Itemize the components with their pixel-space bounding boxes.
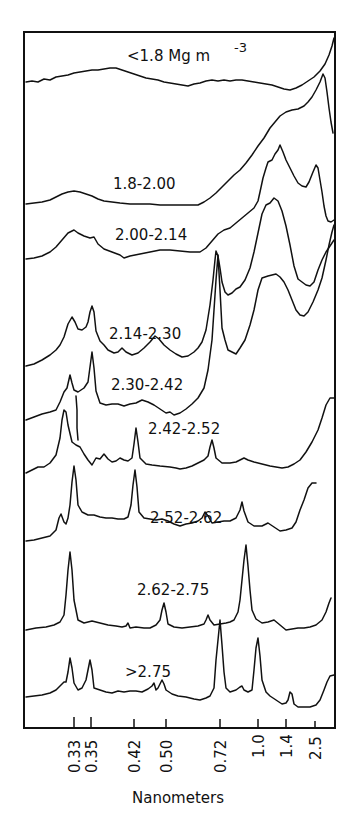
series-label-2.00-2.14: 2.00-2.14 bbox=[115, 226, 187, 244]
x-tick-label-0.72: 0.72 bbox=[212, 740, 230, 773]
trace-1.8-2.00 bbox=[26, 74, 333, 205]
series-label-2.30-2.42: 2.30-2.42 bbox=[111, 376, 183, 394]
series-label-2.42-2.52: 2.42-2.52 bbox=[148, 420, 220, 438]
trace-2.42-2.52-spike bbox=[76, 396, 78, 440]
trace-2.52-2.62 bbox=[26, 466, 316, 541]
x-tick-label-2.5: 2.5 bbox=[307, 736, 325, 760]
series-label-lt-1.8-superscript: -3 bbox=[234, 40, 247, 55]
x-tick-label-0.33: 0.33 bbox=[66, 740, 84, 773]
series-label-2.14-2.30: 2.14-2.30 bbox=[109, 325, 181, 343]
x-axis-title: Nanometers bbox=[132, 789, 224, 807]
x-tick-label-0.35: 0.35 bbox=[83, 740, 101, 773]
series-label-2.52-2.62: 2.52-2.62 bbox=[150, 509, 222, 527]
series-label-1.8-2.00: 1.8-2.00 bbox=[113, 175, 176, 193]
x-tick-label-1.0: 1.0 bbox=[250, 734, 268, 758]
trace-gt-2.75 bbox=[26, 620, 334, 707]
series-label-2.62-2.75: 2.62-2.75 bbox=[137, 581, 209, 599]
x-tick-label-0.50: 0.50 bbox=[158, 740, 176, 773]
x-tick-label-1.4: 1.4 bbox=[278, 734, 296, 758]
xrd-stacked-chart: <1.8 Mg m -3 1.8-2.00 2.00-2.14 2.14-2.3… bbox=[0, 0, 357, 833]
x-tick-label-0.42: 0.42 bbox=[126, 740, 144, 773]
series-label-lt-1.8: <1.8 Mg m bbox=[127, 47, 210, 65]
series-label-gt-2.75: >2.75 bbox=[125, 663, 171, 681]
